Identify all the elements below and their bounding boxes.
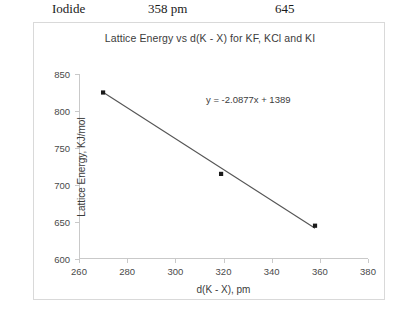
table-cell-ion-name: Iodide <box>52 0 85 18</box>
chart-container: Lattice Energy vs d(K - X) for KF, KCl a… <box>33 22 385 300</box>
x-tick-label: 380 <box>360 266 376 277</box>
table-cell-distance: 358 pm <box>148 0 187 18</box>
x-tick <box>320 259 321 263</box>
table-cell-energy: 645 <box>275 0 295 18</box>
data-markers <box>101 90 317 227</box>
y-tick-label: 800 <box>54 106 70 117</box>
x-tick-label: 320 <box>216 266 232 277</box>
plot-area: 260280300320340360380 600650700750800850… <box>79 74 368 259</box>
y-tick-label: 750 <box>54 143 70 154</box>
x-tick-label: 280 <box>119 266 135 277</box>
x-tick <box>224 259 225 263</box>
x-tick <box>272 259 273 263</box>
x-tick-label: 300 <box>167 266 183 277</box>
x-tick-label: 260 <box>71 266 87 277</box>
trendline <box>103 92 315 228</box>
chart-title: Lattice Energy vs d(K - X) for KF, KCl a… <box>34 32 386 44</box>
x-tick-label: 360 <box>312 266 328 277</box>
data-point <box>219 172 223 176</box>
y-tick-label: 850 <box>54 69 70 80</box>
regression-equation-annotation: y = -2.0877x + 1389 <box>206 94 291 105</box>
y-tick-label: 650 <box>54 217 70 228</box>
y-tick <box>75 259 79 260</box>
y-axis-label: Lattice Energy, KJ/mol <box>76 87 87 247</box>
y-tick-label: 700 <box>54 180 70 191</box>
y-tick-label: 600 <box>54 254 70 265</box>
data-point <box>313 224 317 228</box>
table-row: Iodide 358 pm 645 <box>0 0 403 20</box>
x-axis-label: d(K - X), pm <box>79 284 368 295</box>
x-tick <box>127 259 128 263</box>
x-tick <box>79 259 80 263</box>
data-point <box>101 90 105 94</box>
x-tick <box>175 259 176 263</box>
x-tick <box>368 259 369 263</box>
x-tick-label: 340 <box>264 266 280 277</box>
